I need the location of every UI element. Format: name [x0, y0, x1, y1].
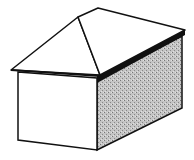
hip-roof-house-diagram	[0, 0, 194, 160]
front-wall	[18, 72, 97, 150]
